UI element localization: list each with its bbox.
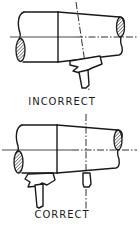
incorrect-panel [10,2,137,90]
tool-bit-incorrect [79,70,89,88]
label-correct: CORRECT [0,209,132,220]
section-hatch-right [117,17,125,37]
shaft-correct [16,125,122,173]
section-hatch-left [16,39,25,62]
label-incorrect: INCORRECT [0,96,132,107]
tool-bit-small [83,173,91,187]
correct-panel [2,114,137,210]
shaft-tool-diagram [0,0,140,229]
tool-bit-correct [35,184,43,208]
section-hatch-left [14,151,23,173]
section-hatch-right [114,130,122,150]
